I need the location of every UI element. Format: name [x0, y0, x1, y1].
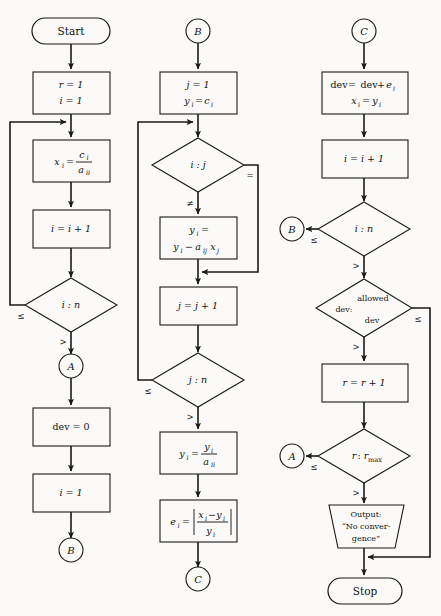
svg-text:x: x	[198, 509, 204, 520]
svg-text:i: i	[62, 162, 64, 170]
svg-text:i: i	[205, 515, 207, 523]
connector-c-middle-out-label: C	[194, 574, 202, 585]
node-test-i-n-right[interactable]: i : n	[318, 202, 410, 256]
node-test-r-rmax[interactable]: r : r max	[318, 429, 410, 483]
connector-b-middle-in[interactable]: B	[186, 19, 210, 43]
node-incr-r-label: r = r + 1	[342, 377, 385, 388]
branch-label-le-middle: ≤	[144, 386, 151, 396]
svg-text:i: i	[180, 247, 182, 255]
svg-text:=: =	[201, 224, 209, 235]
branch-label-neq-middle: ≠	[186, 198, 193, 208]
svg-text:x: x	[54, 156, 60, 167]
node-test-j-n[interactable]: j : n	[152, 353, 244, 407]
svg-text:e: e	[386, 79, 392, 90]
node-set-i-label: i = 1	[59, 487, 82, 498]
branch-label-le-right-in: ≤	[310, 235, 317, 245]
node-test-i-n-left[interactable]: i : n	[25, 278, 117, 332]
connector-a-left-label: A	[66, 361, 74, 372]
svg-text:i: i	[211, 101, 213, 109]
node-test-i-j[interactable]: i : j	[152, 138, 244, 192]
connector-b-middle-in-label: B	[193, 26, 201, 37]
flowchart-svg: Start r = 1 i = 1 x i = c i	[0, 0, 441, 616]
node-update-y[interactable]: y i = y i − a ij x j	[160, 217, 237, 259]
branch-label-gt-right-dev: >	[352, 342, 359, 352]
node-accumulate[interactable]: dev = dev + e i x i = y i	[322, 72, 408, 114]
node-incr-r[interactable]: r = r + 1	[322, 364, 408, 402]
svg-text:x: x	[351, 95, 357, 106]
node-init-line1: r = 1	[59, 79, 84, 90]
connector-a-right-target[interactable]: A	[280, 444, 304, 468]
right-column: C dev = dev + e i x i = y	[280, 19, 430, 604]
node-init-r-i[interactable]: r = 1 i = 1	[33, 72, 110, 114]
node-incr-j-label: j = j + 1	[176, 300, 218, 311]
svg-text:y: y	[188, 224, 195, 235]
node-assign-x[interactable]: x i = c i a ii	[33, 140, 110, 182]
node-output[interactable]: Output: “No conver- gence”	[329, 505, 404, 548]
connector-c-middle-out[interactable]: C	[186, 567, 210, 591]
svg-text:a: a	[203, 456, 209, 467]
svg-text:y: y	[172, 241, 179, 252]
svg-text:+: +	[377, 79, 385, 90]
svg-text:=: =	[66, 156, 74, 167]
branch-label-le-right-rmax: ≤	[310, 462, 317, 472]
node-output-line2: “No conver-	[342, 522, 391, 531]
svg-text:y: y	[203, 441, 210, 452]
node-divide-y[interactable]: y i = y i a ii	[160, 432, 237, 474]
svg-text:ii: ii	[86, 169, 90, 177]
connector-b-left-out[interactable]: B	[59, 538, 83, 562]
svg-text:−: −	[185, 241, 193, 252]
node-error[interactable]: e i = x i − y i y i	[160, 500, 237, 542]
svg-text:y: y	[205, 525, 212, 536]
connector-c-right-in[interactable]: C	[352, 19, 376, 43]
node-dev-zero[interactable]: dev = 0	[33, 408, 110, 446]
connector-a-left[interactable]: A	[59, 354, 83, 378]
svg-text:max: max	[368, 456, 382, 464]
node-output-line1: Output:	[350, 510, 381, 519]
svg-text:ij: ij	[203, 247, 207, 255]
svg-text:i: i	[191, 101, 193, 109]
branch-label-gt-right-rmax: >	[352, 488, 359, 498]
node-incr-i-left-label: i = i + 1	[51, 223, 91, 234]
node-stop-label: Stop	[353, 585, 378, 597]
svg-text:c: c	[79, 149, 85, 160]
svg-text:y: y	[178, 448, 185, 459]
svg-text:x: x	[210, 241, 216, 252]
branch-label-gt-left: >	[59, 337, 66, 347]
left-column: Start r = 1 i = 1 x i = c i	[10, 18, 117, 562]
node-incr-i-left[interactable]: i = i + 1	[33, 210, 110, 248]
svg-text::: :	[357, 450, 360, 461]
node-test-dev-line2: dev:	[335, 305, 352, 314]
node-test-dev[interactable]: allowed dev: dev	[316, 279, 412, 337]
svg-text:i: i	[177, 522, 179, 530]
svg-text:=: =	[191, 448, 199, 459]
svg-text:i: i	[196, 230, 198, 238]
node-output-line3: gence”	[352, 534, 380, 543]
node-init-j-line1: j = 1	[185, 79, 210, 90]
svg-text:dev: dev	[360, 79, 378, 90]
node-start[interactable]: Start	[32, 18, 110, 44]
svg-text:i: i	[86, 154, 88, 162]
svg-text:i: i	[393, 85, 395, 93]
connector-b-right-target[interactable]: B	[280, 217, 304, 241]
branch-label-eq-middle: =	[246, 171, 253, 181]
connector-b-left-out-label: B	[66, 545, 74, 556]
node-set-i[interactable]: i = 1	[33, 474, 110, 512]
connector-c-right-in-label: C	[360, 26, 368, 37]
svg-text:y: y	[215, 509, 222, 520]
svg-text:i: i	[379, 101, 381, 109]
svg-text:=: =	[182, 516, 190, 527]
node-incr-i-right[interactable]: i = i + 1	[322, 140, 408, 178]
node-test-dev-line1: allowed	[357, 294, 388, 303]
branch-label-le-left: ≤	[17, 311, 24, 321]
svg-text:i: i	[213, 531, 215, 539]
svg-text:i: i	[358, 101, 360, 109]
node-init-j[interactable]: j = 1 y i = c i	[160, 72, 237, 114]
branch-label-gt-right-in: >	[352, 261, 359, 271]
flowchart-page: Start r = 1 i = 1 x i = c i	[0, 0, 441, 616]
node-test-dev-line3: dev	[365, 316, 380, 325]
node-stop[interactable]: Stop	[328, 578, 402, 604]
svg-text:y: y	[371, 95, 378, 106]
svg-text:a: a	[78, 164, 84, 175]
node-incr-j[interactable]: j = j + 1	[160, 287, 237, 325]
svg-text:a: a	[195, 241, 201, 252]
